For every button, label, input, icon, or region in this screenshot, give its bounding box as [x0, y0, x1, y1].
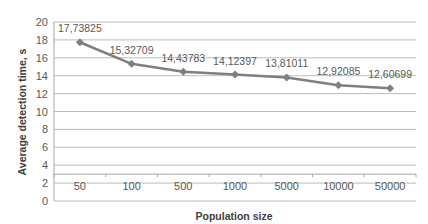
y-tick-label: 10	[36, 106, 48, 118]
x-tick-label: 500	[174, 180, 192, 192]
diamond-marker-icon	[128, 60, 136, 68]
y-tick-label: 8	[42, 123, 48, 135]
x-tick-label: 5000	[274, 180, 298, 192]
y-tick-label: 12	[36, 88, 48, 100]
diamond-marker-icon	[386, 84, 394, 92]
line-chart: 02468101214161820 5010050010005000100005…	[0, 0, 428, 224]
data-label: 13,81011	[265, 57, 308, 69]
x-axis-label: Population size	[195, 210, 272, 222]
data-label: 14,43783	[161, 52, 205, 64]
x-tick-label: 10000	[323, 180, 354, 192]
y-tick-label: 4	[42, 159, 48, 171]
data-label: 12,92085	[317, 65, 361, 77]
x-tick-label: 50000	[375, 180, 406, 192]
x-tick-label: 100	[122, 180, 140, 192]
y-tick-label: 0	[42, 195, 48, 207]
data-label: 14,12397	[213, 55, 257, 67]
y-tick-label: 14	[36, 70, 48, 82]
diamond-marker-icon	[283, 73, 291, 81]
data-label: 15,32709	[110, 44, 154, 56]
x-tick-label: 1000	[223, 180, 247, 192]
y-tick-label: 6	[42, 141, 48, 153]
y-axis-label: Average detection time, s	[16, 48, 28, 175]
y-axis-ticks: 02468101214161820	[36, 16, 48, 207]
data-label: 12,60699	[368, 68, 412, 80]
y-tick-label: 16	[36, 52, 48, 64]
data-label: 17,73825	[58, 22, 102, 34]
y-tick-label: 2	[42, 177, 48, 189]
y-tick-label: 18	[36, 34, 48, 46]
diamond-marker-icon	[179, 68, 187, 76]
diamond-marker-icon	[231, 71, 239, 79]
y-tick-label: 20	[36, 16, 48, 28]
diamond-marker-icon	[334, 81, 342, 89]
x-tick-label: 50	[74, 180, 86, 192]
